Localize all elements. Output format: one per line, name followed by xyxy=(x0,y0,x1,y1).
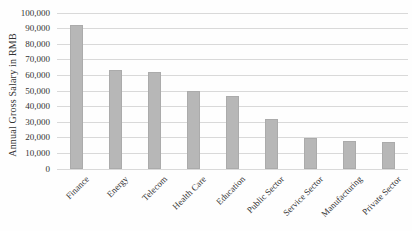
plot-area xyxy=(57,13,408,169)
bar-manufacturing xyxy=(343,141,356,169)
bar-finance xyxy=(70,25,83,169)
bar-service-sector xyxy=(304,138,317,169)
y-tick-label: 0 xyxy=(0,165,50,174)
y-tick-label: 10,000 xyxy=(0,149,50,158)
gridline-100000 xyxy=(57,13,408,14)
y-tick-label: 70,000 xyxy=(0,55,50,64)
gridline-90000 xyxy=(57,28,408,29)
salary-bar-chart: Annual Gross Salary in RMB 010,00020,000… xyxy=(0,0,412,231)
bar-education xyxy=(226,96,239,169)
y-tick-label: 80,000 xyxy=(0,40,50,49)
y-tick-label: 50,000 xyxy=(0,87,50,96)
y-tick-label: 20,000 xyxy=(0,133,50,142)
gridline-80000 xyxy=(57,44,408,45)
bar-private-sector xyxy=(382,142,395,169)
y-tick-label: 90,000 xyxy=(0,24,50,33)
bar-health-care xyxy=(187,91,200,169)
y-tick-label: 100,000 xyxy=(0,9,50,18)
y-tick-label: 30,000 xyxy=(0,118,50,127)
bar-energy xyxy=(109,70,122,169)
y-tick-label: 40,000 xyxy=(0,102,50,111)
bar-telecom xyxy=(148,72,161,169)
gridline-70000 xyxy=(57,59,408,60)
bar-public-sector xyxy=(265,119,278,169)
y-tick-label: 60,000 xyxy=(0,71,50,80)
